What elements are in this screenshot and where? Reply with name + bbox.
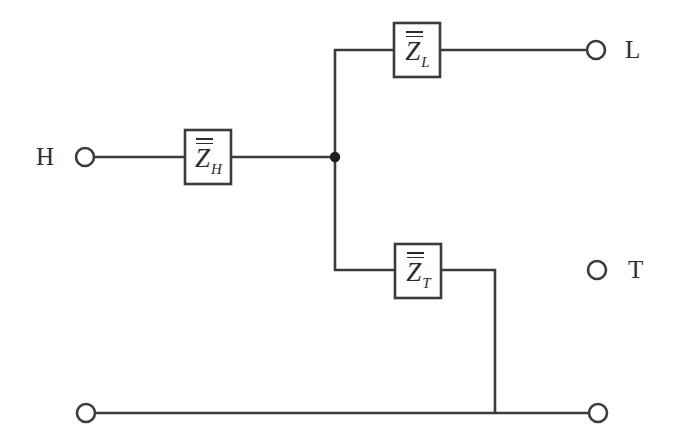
overbar-inner-icon: [407, 257, 424, 259]
wire-junction-down-to-zt-branch: [335, 156, 396, 270]
terminal-circle-h[interactable]: [76, 148, 94, 166]
circuit-schematic-svg: [0, 0, 685, 444]
zh-symbol: Z: [195, 143, 210, 173]
terminal-circle-ground-left[interactable]: [77, 404, 95, 422]
overbar-outer-icon: [196, 138, 213, 140]
overbar-inner-icon: [406, 36, 423, 38]
component-label-zh: ZH: [185, 138, 231, 172]
diagram-canvas: H L T ZL ZH ZT: [0, 0, 685, 444]
zl-subscript: L: [421, 54, 429, 70]
port-label-t: T: [628, 257, 643, 282]
zl-symbol: Z: [405, 36, 420, 66]
terminal-group: [76, 41, 607, 422]
port-label-l: L: [625, 37, 640, 62]
overbar-outer-icon: [406, 31, 423, 33]
junction-dot: [330, 152, 340, 162]
zl-symbol-wrap: ZL: [405, 31, 428, 65]
overbar-inner-icon: [196, 143, 213, 145]
terminal-circle-ground-right[interactable]: [589, 404, 607, 422]
zt-subscript: T: [422, 275, 430, 291]
zh-subscript: H: [211, 161, 222, 177]
wire-zt-to-ground-drop: [441, 270, 495, 414]
zt-symbol: Z: [406, 257, 421, 287]
port-label-h: H: [36, 144, 54, 169]
overbar-outer-icon: [407, 252, 424, 254]
component-label-zl: ZL: [394, 31, 440, 65]
terminal-circle-l[interactable]: [587, 41, 605, 59]
terminal-circle-t[interactable]: [588, 261, 606, 279]
wire-junction-up-to-zl-branch: [335, 50, 395, 158]
zt-symbol-wrap: ZT: [406, 252, 429, 286]
component-label-zt: ZT: [395, 252, 441, 286]
wire-group: [95, 50, 589, 414]
zh-symbol-wrap: ZH: [195, 138, 221, 172]
